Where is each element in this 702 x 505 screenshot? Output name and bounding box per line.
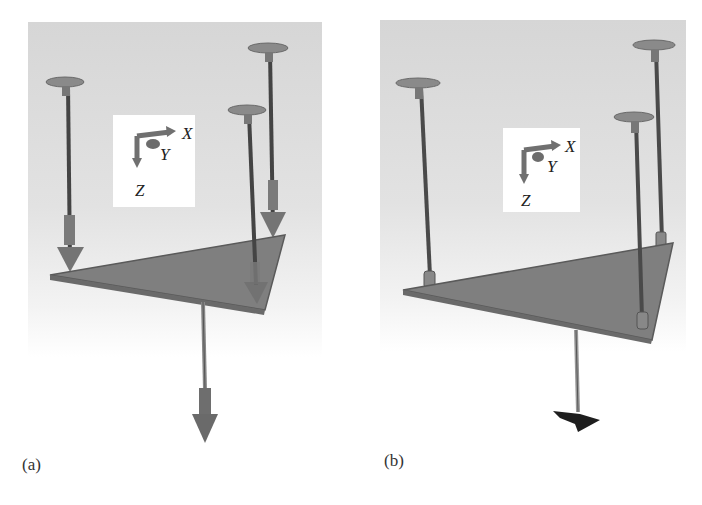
load-arrow-icon: [192, 414, 218, 443]
anchor-disk-icon: [46, 77, 84, 87]
z-axis-label: Z: [521, 191, 531, 210]
arrow-shaft: [64, 215, 75, 245]
panel-a-caption: (a): [22, 455, 41, 475]
x-axis-label: X: [564, 137, 576, 156]
y-axis-arrow-icon: [146, 139, 160, 149]
scene-b: X Y Z: [351, 0, 702, 505]
anchor-disk-icon: [228, 105, 266, 115]
axis-triad: X Y Z: [113, 115, 195, 207]
panel-a: X Y Z (a): [0, 0, 351, 505]
brush-end-effector-icon: [553, 411, 600, 432]
z-axis-label: Z: [135, 181, 145, 200]
anchor-disk-icon: [633, 40, 675, 50]
panel-b-caption: (b): [384, 451, 404, 471]
x-axis-label: X: [181, 124, 193, 143]
anchor-disk-icon: [248, 43, 288, 53]
y-axis-arrow-icon: [532, 152, 544, 162]
arrow-shaft: [268, 180, 278, 210]
joint-icon: [637, 312, 648, 329]
anchor-disk-icon: [396, 78, 440, 88]
y-axis-label: Y: [547, 157, 558, 176]
axis-triad: X Y Z: [503, 128, 580, 212]
anchor-disk-icon: [614, 112, 654, 122]
panel-b: X Y Z (b): [351, 0, 702, 505]
y-axis-label: Y: [160, 145, 171, 164]
scene-a: X Y Z: [0, 0, 351, 505]
